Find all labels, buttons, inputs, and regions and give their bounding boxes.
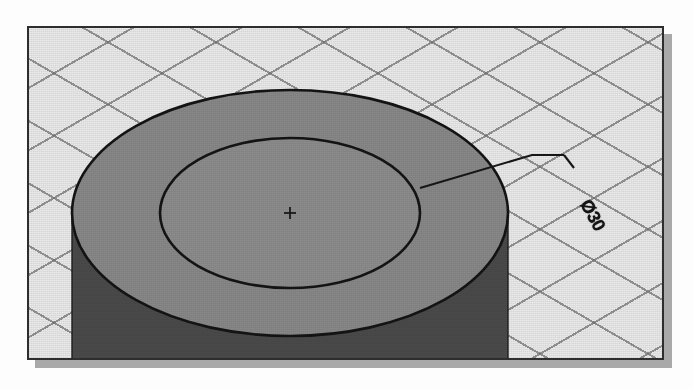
solid-model[interactable]	[27, 26, 664, 360]
scanned-page: Ø30	[0, 0, 693, 389]
dimension-leader-tail	[564, 155, 574, 168]
cad-viewport[interactable]: Ø30	[27, 26, 664, 360]
